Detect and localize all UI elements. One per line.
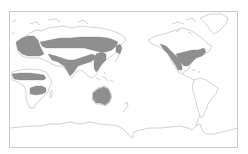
antarctica-coastline — [10, 122, 238, 138]
central-america — [182, 74, 194, 80]
madagascar — [50, 90, 52, 98]
se-asia-islands — [96, 72, 114, 82]
range-south-asia — [94, 52, 106, 72]
new-zealand — [123, 102, 128, 112]
range-japan — [116, 44, 122, 54]
greenland-outline — [200, 14, 228, 34]
world-map — [0, 0, 248, 154]
caribbean-islands — [192, 70, 200, 72]
south-america-outline — [192, 78, 218, 118]
